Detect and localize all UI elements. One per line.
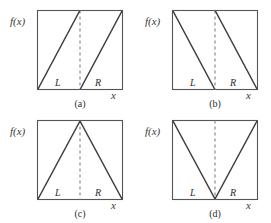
panel-b-right-region-label: R	[230, 78, 236, 88]
panel-a-ramp-right	[80, 11, 122, 89]
panel-d-x-axis-label: x	[246, 200, 251, 211]
panel-b-caption: (b)	[195, 99, 235, 109]
panel-a-right-region-label: R	[95, 78, 101, 88]
panel-a: f(x) L R x (a)	[0, 0, 136, 112]
panel-c-left-region-label: L	[55, 188, 61, 198]
panel-a-caption: (a)	[60, 99, 100, 109]
panel-a-x-axis-label: x	[111, 90, 116, 101]
panel-b: f(x) L R x (b)	[135, 0, 271, 112]
panel-a-y-axis-label: f(x)	[10, 16, 25, 27]
panel-b-ramp-right	[215, 11, 257, 89]
panel-c-y-axis-label: f(x)	[10, 126, 25, 137]
panel-c-right-region-label: R	[95, 188, 101, 198]
panel-d-caption: (d)	[195, 209, 235, 219]
panel-c-x-axis-label: x	[111, 200, 116, 211]
panel-a-left-region-label: L	[55, 78, 61, 88]
four-panel-function-figure: f(x) L R x (a) f(x) L R x (b) f(x)	[0, 0, 271, 223]
panel-d-left-region-label: L	[190, 188, 196, 198]
panel-c: f(x) L R x (c)	[0, 110, 136, 223]
panel-d-right-region-label: R	[230, 188, 236, 198]
panel-b-x-axis-label: x	[246, 90, 251, 101]
panel-c-caption: (c)	[60, 209, 100, 219]
panel-b-left-region-label: L	[190, 78, 196, 88]
panel-d: f(x) L R x (d)	[135, 110, 271, 223]
panel-b-y-axis-label: f(x)	[145, 16, 160, 27]
panel-d-y-axis-label: f(x)	[145, 126, 160, 137]
